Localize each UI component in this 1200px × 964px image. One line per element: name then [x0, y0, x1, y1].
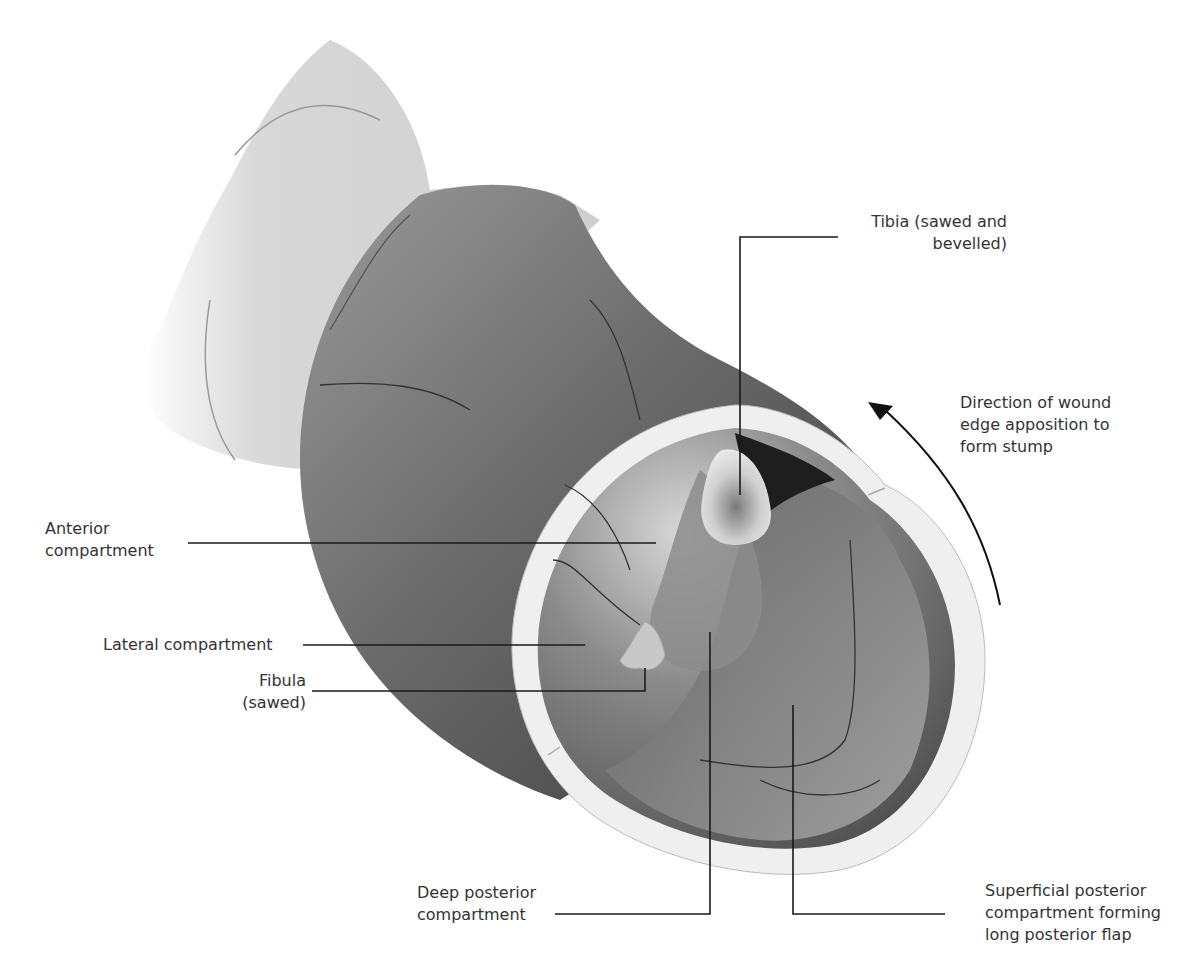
label-deep-posterior-compartment: Deep posterior compartment [417, 882, 567, 926]
label-fibula: Fibula (sawed) [220, 670, 306, 714]
label-anterior-compartment: Anterior compartment [45, 518, 185, 562]
label-lateral-compartment: Lateral compartment [103, 634, 303, 656]
label-direction-of-wound-edge-apposition: Direction of wound edge apposition to fo… [960, 392, 1160, 458]
amputation-stump-illustration [0, 0, 1200, 964]
arrow-head [868, 402, 893, 420]
label-tibia: Tibia (sawed and bevelled) [845, 211, 1007, 255]
label-superficial-posterior-compartment: Superficial posterior compartment formin… [985, 880, 1200, 946]
